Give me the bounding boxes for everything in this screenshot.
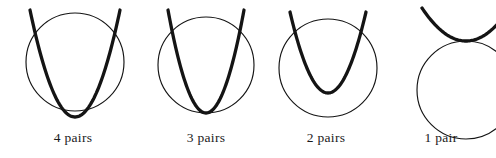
figure-4-pairs-circle [26,13,124,111]
figure-4-pairs-drawing [0,0,146,128]
figure-board: 4 pairs3 pairs2 pairs1 pair [0,0,496,158]
figure-1-pair-caption: 1 pair [386,130,496,146]
figure-1-pair-drawing [386,0,496,128]
figure-2-pairs-circle [279,19,377,117]
figure-1-pair-circle [417,41,496,139]
figure-4-pairs-caption: 4 pairs [0,130,146,146]
figure-1-pair: 1 pair [386,0,496,158]
figure-4-pairs-parabola [30,10,120,117]
figure-3-pairs-caption: 3 pairs [146,130,266,146]
figure-2-pairs-caption: 2 pairs [266,130,386,146]
figure-2-pairs: 2 pairs [266,0,386,158]
figure-2-pairs-parabola [290,12,366,93]
figure-4-pairs: 4 pairs [0,0,146,158]
figure-3-pairs: 3 pairs [146,0,266,158]
figure-1-pair-parabola [422,8,496,41]
figure-2-pairs-drawing [266,0,386,128]
figure-3-pairs-drawing [146,0,266,128]
